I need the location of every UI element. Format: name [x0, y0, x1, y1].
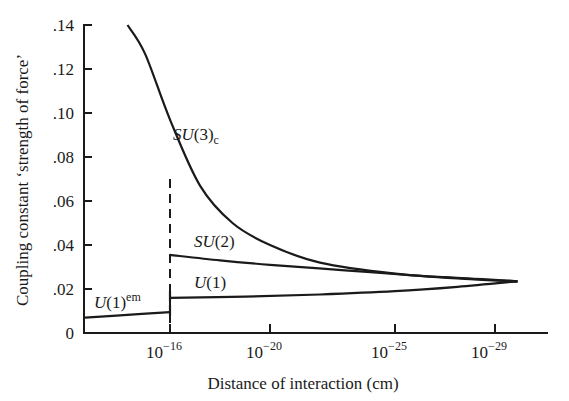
- y-tick-label: 0: [66, 324, 75, 343]
- label-su2: SU(2): [194, 232, 235, 251]
- y-tick-label: .08: [53, 148, 74, 167]
- y-axis-title: Coupling constant ‘strength of force’: [13, 54, 32, 306]
- x-tick-label: 10−25: [371, 339, 407, 362]
- x-axis-title: Distance of interaction (cm): [207, 374, 398, 393]
- label-u1: U(1): [194, 273, 226, 292]
- y-tick-label: .06: [53, 192, 74, 211]
- x-tick-label: 10−20: [246, 339, 282, 362]
- coupling-constant-chart: 0.02.04.06.08.10.12.14 10−1610−2010−2510…: [0, 0, 569, 401]
- curve-su3c: [128, 25, 518, 281]
- y-ticks: 0.02.04.06.08.10.12.14: [53, 16, 92, 343]
- x-tick-label: 10−16: [146, 339, 182, 362]
- y-tick-label: .14: [53, 16, 75, 35]
- y-tick-label: .10: [53, 104, 74, 123]
- curve-u1em: [85, 312, 170, 318]
- x-tick-label: 10−29: [471, 339, 507, 362]
- y-tick-label: .02: [53, 280, 74, 299]
- label-u1em: U(1)em: [94, 290, 141, 312]
- series-curves: [85, 25, 518, 318]
- x-ticks: 10−1610−2010−2510−29: [146, 324, 507, 362]
- label-su3c: SU(3)c: [173, 125, 219, 147]
- y-tick-label: .12: [53, 60, 74, 79]
- y-tick-label: .04: [53, 236, 75, 255]
